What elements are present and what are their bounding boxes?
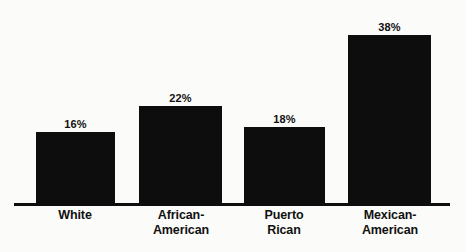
bar-value-label-0: 16% [64, 118, 86, 130]
category-label-line: American [332, 223, 448, 238]
bar-group-0: 16% [36, 132, 115, 206]
category-label-line: White [20, 208, 130, 223]
bar-group-3: 38% [348, 35, 431, 206]
plot-area: 16% 22% 18% 38% [0, 0, 466, 206]
category-label-puerto-rican: PuertoRican [230, 208, 338, 238]
category-label-line: Puerto [230, 208, 338, 223]
category-label-line: American [125, 223, 237, 238]
x-axis-baseline [14, 203, 450, 206]
category-label-line: Mexican- [332, 208, 448, 223]
bar-mexican-american [348, 35, 431, 206]
bar-value-label-2: 18% [273, 113, 295, 125]
category-label-mexican-american: Mexican-American [332, 208, 448, 238]
category-label-line: Rican [230, 223, 338, 238]
category-label-african-american: African-American [125, 208, 237, 238]
bar-value-label-1: 22% [169, 92, 191, 104]
category-label-line: African- [125, 208, 237, 223]
bar-african-american [139, 106, 222, 206]
category-label-white: White [20, 208, 130, 223]
bar-value-label-3: 38% [378, 21, 400, 33]
bar-chart: 16% 22% 18% 38% White African-American P… [0, 0, 466, 252]
bar-group-1: 22% [139, 106, 222, 206]
category-axis-labels: White African-American PuertoRican Mexic… [0, 208, 466, 252]
bar-group-2: 18% [244, 127, 325, 206]
bar-puerto-rican [244, 127, 325, 206]
bar-white [36, 132, 115, 206]
